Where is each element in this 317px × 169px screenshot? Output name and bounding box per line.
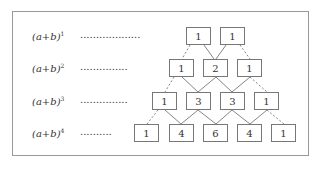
- connector-lines: [0, 0, 317, 169]
- row-4-coefficient: 4: [237, 124, 262, 142]
- row-4-leader-dots: ..........: [80, 126, 112, 137]
- row-2-coefficient: 1: [169, 59, 194, 77]
- row-4-label: (a+b)4: [32, 127, 64, 139]
- row-1-leader-dots: ...................: [80, 29, 140, 40]
- row-2-label: (a+b)2: [32, 62, 64, 74]
- row-1-label: (a+b)1: [32, 30, 64, 42]
- row-3-leader-dots: ...............: [80, 94, 128, 105]
- row-4-coefficient: 4: [169, 124, 194, 142]
- row-3-coefficient: 1: [152, 92, 177, 110]
- row-2-leader-dots: ...............: [80, 61, 128, 72]
- row-4-coefficient: 6: [203, 124, 228, 142]
- row-3-coefficient: 3: [220, 92, 245, 110]
- row-4-coefficient: 1: [271, 124, 296, 142]
- row-4-coefficient: 1: [134, 124, 159, 142]
- row-2-coefficient: 1: [237, 59, 262, 77]
- row-3-coefficient: 3: [186, 92, 211, 110]
- row-3-label: (a+b)3: [32, 95, 64, 107]
- row-1-coefficient: 1: [186, 27, 211, 45]
- row-2-coefficient: 2: [203, 59, 228, 77]
- row-3-coefficient: 1: [254, 92, 279, 110]
- row-1-coefficient: 1: [220, 27, 245, 45]
